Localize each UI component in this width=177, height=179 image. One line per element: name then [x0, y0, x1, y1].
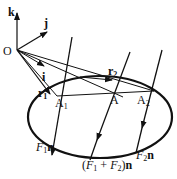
point-A-label: A	[110, 93, 119, 107]
r2-label: r2	[108, 64, 117, 79]
force-diagram: k j i O r1 r2 A1 A A2 F1n (F1 + F2)n F2n	[0, 0, 177, 179]
j-axis	[17, 32, 47, 50]
j-label: j	[43, 16, 48, 30]
point-A1-label: A1	[55, 96, 68, 111]
k-label: k	[8, 5, 15, 19]
r1-line	[17, 50, 57, 96]
force-line-F2	[142, 50, 162, 128]
line-O-A2	[17, 50, 154, 91]
r-arrow-1	[17, 50, 44, 66]
origin-label: O	[3, 44, 12, 58]
F1-plus-F2-n-label: (F1 + F2)n	[82, 158, 132, 173]
point-A2-label: A2	[137, 93, 150, 108]
